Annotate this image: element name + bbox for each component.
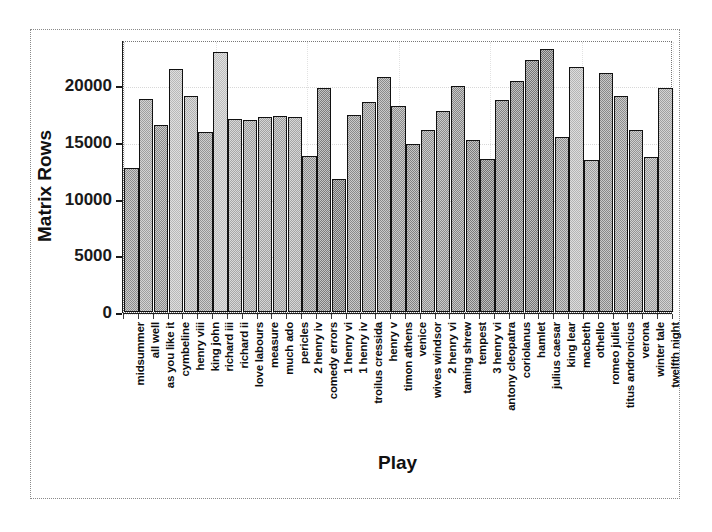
x-axis-tick-mark <box>271 314 272 319</box>
x-axis-tick-mark <box>301 314 302 319</box>
x-axis-tick-label: venice <box>416 322 428 357</box>
bar <box>243 120 257 312</box>
x-axis-tick-mark <box>494 314 495 319</box>
bar-series <box>124 42 671 312</box>
bar <box>466 140 480 312</box>
y-axis-tick-mark <box>116 313 122 315</box>
bar <box>347 115 361 312</box>
x-axis-tick-label: othello <box>594 322 606 358</box>
x-axis-tick-mark <box>257 314 258 319</box>
x-axis-tick-mark <box>405 314 406 319</box>
x-axis-tick-mark <box>420 314 421 319</box>
x-axis-tick-mark <box>509 314 510 319</box>
bar <box>584 160 598 312</box>
bar <box>154 125 168 312</box>
x-axis-tick-mark <box>657 314 658 319</box>
bar <box>406 144 420 312</box>
x-axis-tick-mark <box>598 314 599 319</box>
x-axis-tick-mark <box>553 314 554 319</box>
bar <box>614 96 628 312</box>
x-axis-tick-label: timon athens <box>402 322 414 391</box>
y-axis-tick-label: 10000 <box>65 190 112 210</box>
x-axis-tick-mark <box>568 314 569 319</box>
bar <box>658 88 672 312</box>
bar <box>228 119 242 312</box>
x-axis-tick-label: richard iii <box>223 322 235 372</box>
x-axis-tick-label: midsummer <box>134 322 146 385</box>
bar <box>391 106 405 312</box>
x-axis-tick-label: verona <box>639 322 651 359</box>
x-axis-tick-mark <box>583 314 584 319</box>
y-axis-tick-labels: 05000100001500020000 <box>0 0 112 532</box>
x-axis-tick-mark <box>138 314 139 319</box>
x-axis-tick-label: 2 henry vi <box>446 322 458 374</box>
x-axis-tick-mark <box>464 314 465 319</box>
x-axis-tick-label: hamlet <box>535 322 547 358</box>
bar <box>540 49 554 312</box>
bar <box>169 69 183 312</box>
x-axis-tick-label: cymbeline <box>179 322 191 376</box>
x-axis-tick-label: macbeth <box>580 322 592 368</box>
x-axis-tick-label: pericles <box>298 322 310 364</box>
x-axis-tick-mark <box>316 314 317 319</box>
x-axis-tick-mark <box>242 314 243 319</box>
bar <box>273 116 287 312</box>
x-axis-tick-mark <box>538 314 539 319</box>
x-axis-tick-mark <box>642 314 643 319</box>
bar <box>569 67 583 312</box>
bar <box>213 52 227 312</box>
x-axis-tick-label: coriolanus <box>520 322 532 378</box>
chart-figure: Matrix Rows 05000100001500020000 midsumm… <box>0 0 712 532</box>
x-axis-tick-mark <box>168 314 169 319</box>
x-axis-tick-label: 2 henry iv <box>312 322 324 374</box>
x-axis-tick-label: titus andronicus <box>624 322 636 408</box>
bar <box>510 81 524 312</box>
x-axis-tick-mark <box>627 314 628 319</box>
bar <box>184 96 198 312</box>
bar <box>362 102 376 312</box>
x-axis-tick-label: measure <box>268 322 280 368</box>
bar <box>258 117 272 312</box>
x-axis-tick-mark <box>346 314 347 319</box>
x-axis-tick-label: 1 henry vi <box>342 322 354 374</box>
x-axis-tick-label: julius caesar <box>550 322 562 389</box>
x-axis-tick-label: love labours <box>253 322 265 387</box>
plot-area <box>123 41 672 313</box>
bar <box>525 60 539 312</box>
x-axis-tick-labels: midsummerall wellas you like itcymbeline… <box>123 322 672 452</box>
x-axis-tick-mark <box>479 314 480 319</box>
x-axis-tick-mark <box>153 314 154 319</box>
x-axis-tick-label: as you like it <box>164 322 176 388</box>
bar <box>198 132 212 312</box>
x-axis-tick-label: 3 henry vi <box>491 322 503 374</box>
x-axis-tick-label: 1 henry iv <box>357 322 369 374</box>
x-axis-tick-mark <box>613 314 614 319</box>
bar <box>302 156 316 312</box>
x-axis-tick-label: tempest <box>476 322 488 365</box>
bar <box>139 99 153 312</box>
x-axis-tick-label: king john <box>209 322 221 371</box>
bar <box>377 77 391 312</box>
y-axis-tick-label: 20000 <box>65 76 112 96</box>
y-axis-tick-mark <box>116 86 122 88</box>
bar <box>599 73 613 312</box>
x-axis-tick-mark <box>123 314 124 319</box>
bar <box>495 100 509 312</box>
bar <box>436 111 450 312</box>
x-axis-title: Play <box>123 452 672 474</box>
x-axis-tick-label: richard ii <box>238 322 250 369</box>
x-axis-tick-label: all well <box>149 322 161 358</box>
x-axis-tick-mark <box>375 314 376 319</box>
bar <box>317 88 331 312</box>
x-axis-tick-label: king lear <box>565 322 577 368</box>
x-axis-tick-label: troilus cressida <box>372 322 384 404</box>
bar <box>644 157 658 312</box>
y-axis-tick-label: 15000 <box>65 133 112 153</box>
x-axis-tick-mark <box>672 314 673 319</box>
gridline-vertical <box>673 42 674 312</box>
x-axis-tick-label: much ado <box>283 322 295 375</box>
y-axis-tick-mark <box>116 143 122 145</box>
x-axis-tick-label: henry viii <box>194 322 206 371</box>
bar <box>288 117 302 312</box>
bar <box>451 86 465 312</box>
